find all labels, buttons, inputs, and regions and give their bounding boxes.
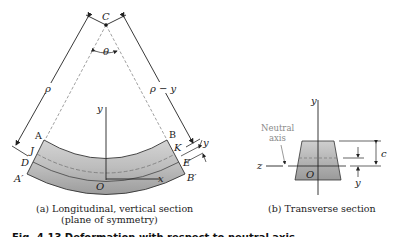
label-B-prime: B′ <box>186 172 197 183</box>
neutral-axis-pointer <box>281 145 285 164</box>
label-rho-minus-y: ρ − y <box>149 83 177 94</box>
label-y-offset: y <box>202 137 209 148</box>
label-B: B <box>169 129 176 140</box>
panel-b-transverse-section: y z O Neutral axis c y (b) Transverse se… <box>256 95 387 214</box>
label-theta: θ <box>103 46 109 57</box>
label-y-dim: y <box>354 177 361 188</box>
label-A: A <box>34 130 42 141</box>
figure-caption: Fig. 4.13 Deformation with respect to ne… <box>12 232 299 237</box>
label-c: c <box>381 148 387 159</box>
label-D: D <box>20 157 29 168</box>
panel-a-longitudinal-section: C ρ ρ − y θ y x O A B J K D E <box>12 11 209 225</box>
label-rho: ρ <box>44 83 51 94</box>
label-origin-a: O <box>96 181 104 192</box>
label-y-axis-a: y <box>96 103 103 114</box>
label-center: C <box>102 11 110 22</box>
label-y-axis-b: y <box>310 95 317 106</box>
caption-b: (b) Transverse section <box>268 203 376 214</box>
caption-a-line2: (plane of symmetry) <box>61 214 158 225</box>
label-origin-b: O <box>306 169 314 180</box>
label-neutral-axis-1: Neutral <box>261 123 294 133</box>
label-J: J <box>28 145 35 156</box>
bending-diagram: C ρ ρ − y θ y x O A B J K D E <box>0 0 397 237</box>
radial-dashed-left <box>45 25 106 140</box>
caption-a-line1: (a) Longitudinal, vertical section <box>36 203 193 214</box>
label-z-axis: z <box>256 160 263 171</box>
label-K: K <box>173 142 182 153</box>
label-A-prime: A′ <box>13 173 24 184</box>
rho-dimension-line <box>16 17 88 145</box>
label-neutral-axis-2: axis <box>269 133 286 143</box>
label-x-axis-a: x <box>158 173 164 184</box>
label-E: E <box>182 157 191 168</box>
